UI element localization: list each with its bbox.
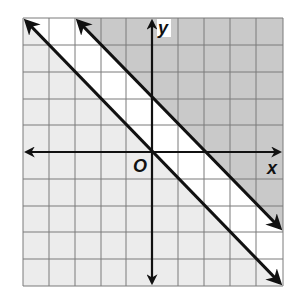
- y-axis-label: y: [157, 18, 169, 38]
- x-axis-label: x: [266, 158, 278, 178]
- coordinate-plane: y x O: [0, 0, 294, 299]
- origin-label: O: [133, 156, 147, 176]
